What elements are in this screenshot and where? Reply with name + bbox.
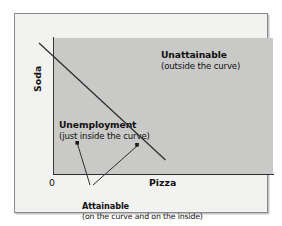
- annotation-attainable: Attainable (on the curve and on the insi…: [82, 202, 203, 221]
- annotation-unemployment: Unemployment (just inside the curve): [59, 120, 150, 141]
- annotation-unemployment-heading: Unemployment: [59, 120, 150, 131]
- figure-frame: Unattainable (outside the curve) Unemplo…: [14, 13, 268, 213]
- annotation-unattainable: Unattainable (outside the curve): [161, 50, 240, 71]
- ppf-figure: Unattainable (outside the curve) Unemplo…: [0, 0, 282, 226]
- x-axis-line: [53, 174, 274, 176]
- annotation-attainable-subtext: (on the curve and on the inside): [82, 212, 203, 221]
- annotation-attainable-heading: Attainable: [82, 202, 203, 212]
- annotation-unemployment-subtext: (just inside the curve): [59, 131, 150, 141]
- origin-label: 0: [49, 177, 55, 188]
- y-axis-label: Soda: [32, 66, 43, 92]
- annotation-unattainable-subtext: (outside the curve): [161, 61, 240, 71]
- x-axis-label: Pizza: [149, 177, 176, 188]
- y-axis-line: [53, 37, 54, 175]
- annotation-unattainable-heading: Unattainable: [161, 50, 240, 61]
